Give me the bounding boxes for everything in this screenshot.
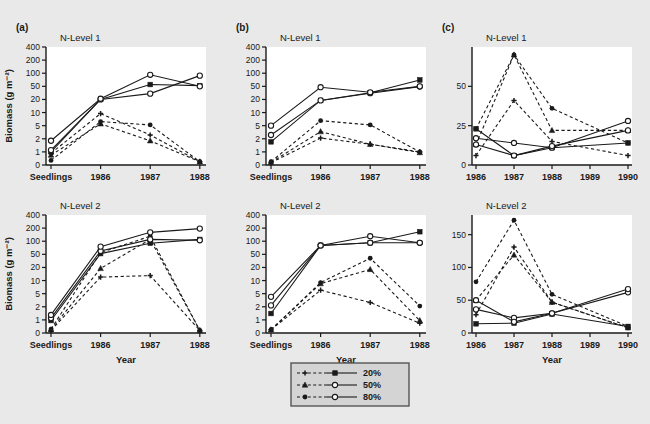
y-tick-label: 50 xyxy=(31,249,41,259)
marker-open-circle xyxy=(268,123,273,128)
marker-filled-circle xyxy=(49,327,54,332)
marker-open-circle xyxy=(549,311,554,316)
y-tick-label: 100 xyxy=(246,236,260,246)
marker-filled-circle xyxy=(197,159,202,164)
marker-open-circle xyxy=(148,237,153,242)
marker-filled-square xyxy=(474,127,479,132)
y-tick-label: 1 xyxy=(255,315,260,325)
y-tick-label: 10 xyxy=(251,108,261,118)
marker-open-circle xyxy=(268,303,273,308)
marker-open-circle xyxy=(197,84,202,89)
y-tick-label: 25 xyxy=(457,121,467,131)
marker-open-circle xyxy=(368,234,373,239)
y-tick-label: 200 xyxy=(26,223,40,233)
marker-filled-circle xyxy=(368,123,373,128)
y-tick-label: 1 xyxy=(35,315,40,325)
y-tick-label: 10 xyxy=(31,276,41,286)
y-tick-label: 5 xyxy=(35,289,40,299)
legend-label: 20% xyxy=(363,368,381,378)
marker-filled-circle xyxy=(269,327,274,332)
marker-open-circle xyxy=(332,394,337,399)
x-tick-label: 1987 xyxy=(504,340,524,350)
y-tick-label: 5 xyxy=(255,289,260,299)
x-tick-label: 1988 xyxy=(410,340,430,350)
marker-open-circle xyxy=(268,294,273,299)
marker-filled-square xyxy=(474,322,479,327)
marker-open-circle xyxy=(148,72,153,77)
x-tick-label: 1990 xyxy=(618,340,638,350)
x-tick-label: 1988 xyxy=(190,340,210,350)
y-tick-label: 5 xyxy=(35,121,40,131)
marker-open-circle xyxy=(625,118,630,123)
plot-area-b-top xyxy=(266,47,426,165)
marker-filled-circle xyxy=(512,52,517,57)
y-tick-label: 400 xyxy=(246,210,260,220)
y-tick-label: 100 xyxy=(26,68,40,78)
marker-open-circle xyxy=(473,136,478,141)
y-tick-label: 0 xyxy=(461,328,466,338)
x-tick-label: Seedlings xyxy=(30,172,73,182)
x-tick-label: 1988 xyxy=(542,340,562,350)
y-axis-title: Biomass (g m⁻²) xyxy=(3,237,14,311)
marker-open-circle xyxy=(549,144,554,149)
marker-filled-circle xyxy=(49,158,54,163)
y-tick-label: 5 xyxy=(255,121,260,131)
x-tick-label: 1989 xyxy=(580,340,600,350)
marker-open-circle xyxy=(148,91,153,96)
y-tick-label: 50 xyxy=(31,81,41,91)
x-tick-label: Seedlings xyxy=(250,172,293,182)
x-tick-label: 1988 xyxy=(542,172,562,182)
y-tick-label: 50 xyxy=(457,295,467,305)
marker-open-circle xyxy=(197,226,202,231)
plot-area-a-top xyxy=(46,47,206,165)
marker-open-circle xyxy=(318,85,323,90)
plot-area-b-bottom xyxy=(266,215,426,333)
marker-open-circle xyxy=(625,128,630,133)
y-tick-label: 0 xyxy=(255,160,260,170)
y-tick-label: 50 xyxy=(251,249,261,259)
marker-filled-circle xyxy=(148,123,153,128)
x-tick-label: Seedlings xyxy=(250,340,293,350)
plot-area-a-bottom xyxy=(46,215,206,333)
marker-filled-square xyxy=(626,141,631,146)
marker-open-circle xyxy=(473,142,478,147)
y-tick-label: 0 xyxy=(35,328,40,338)
y-tick-label: 0 xyxy=(35,160,40,170)
x-tick-label: 1986 xyxy=(91,172,111,182)
x-tick-label: 1986 xyxy=(466,172,486,182)
panel-title-a-bottom: N-Level 2 xyxy=(60,200,101,211)
marker-open-circle xyxy=(511,153,516,158)
y-tick-label: 10 xyxy=(251,276,261,286)
legend-label: 80% xyxy=(363,392,381,402)
marker-open-circle xyxy=(417,240,422,245)
marker-filled-circle xyxy=(512,218,517,223)
y-tick-label: 400 xyxy=(26,210,40,220)
y-tick-label: 20 xyxy=(251,262,261,272)
y-tick-label: 2 xyxy=(255,134,260,144)
marker-filled-square xyxy=(269,311,274,316)
marker-filled-square xyxy=(269,140,274,145)
marker-open-circle xyxy=(48,312,53,317)
legend-box[interactable]: 20%50%80% xyxy=(291,363,409,406)
marker-filled-circle xyxy=(269,159,274,164)
marker-filled-circle xyxy=(318,280,323,285)
x-tick-label: 1987 xyxy=(360,172,380,182)
x-tick-label: Seedlings xyxy=(30,340,73,350)
y-tick-label: 0 xyxy=(461,160,466,170)
x-tick-label: 1986 xyxy=(466,340,486,350)
y-tick-label: 20 xyxy=(31,94,41,104)
marker-open-circle xyxy=(511,140,516,145)
marker-open-circle xyxy=(48,147,53,152)
y-axis-title: Biomass (g m⁻²) xyxy=(3,69,14,143)
marker-open-circle xyxy=(473,298,478,303)
marker-filled-square xyxy=(626,324,631,329)
x-tick-label: 1987 xyxy=(140,172,160,182)
marker-filled-circle xyxy=(368,256,373,261)
panel-title-b-bottom: N-Level 2 xyxy=(280,200,321,211)
y-tick-label: 50 xyxy=(457,81,467,91)
marker-filled-circle xyxy=(550,292,555,297)
y-tick-label: 200 xyxy=(246,55,260,65)
marker-open-circle xyxy=(473,307,478,312)
marker-filled-square xyxy=(148,82,153,87)
panel-title-a-top: N-Level 1 xyxy=(60,32,101,43)
